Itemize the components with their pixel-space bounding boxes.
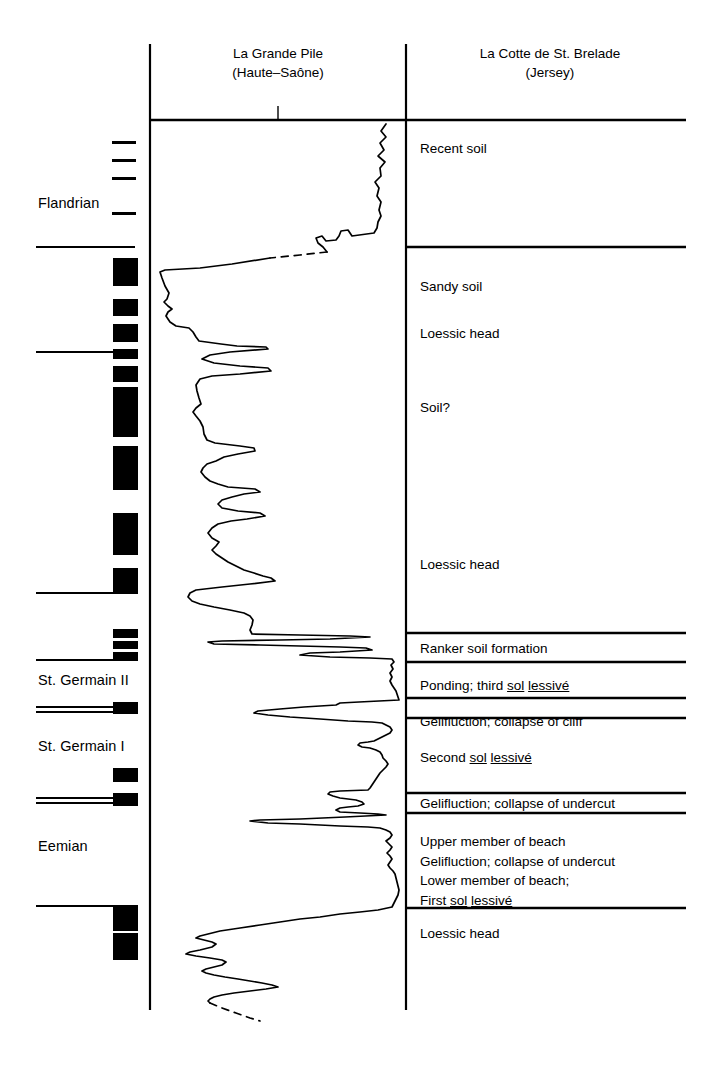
lithology-block-17: [113, 768, 138, 782]
lithology-dash-2: [112, 177, 136, 180]
pollen-curve-dashed-3: [210, 1003, 260, 1021]
lithology-dash-1: [112, 159, 136, 162]
lithology-block-19: [113, 905, 138, 931]
lithology-block-20: [113, 933, 138, 960]
pollen-curve-solid-2: [160, 258, 399, 1003]
figure-vector-layer: [0, 0, 727, 1088]
lithology-block-6: [113, 324, 138, 342]
lithology-block-18: [113, 793, 138, 806]
lithology-dash-0: [112, 141, 136, 144]
pollen-curve-dashed-1: [270, 252, 327, 258]
lithology-block-10: [113, 446, 138, 490]
lithology-block-13: [113, 629, 138, 638]
lithology-block-12: [113, 568, 138, 594]
lithology-block-16: [113, 702, 138, 714]
lithology-block-5: [113, 299, 138, 316]
pollen-curve-solid-0: [316, 124, 386, 252]
lithology-dash-3: [112, 212, 136, 215]
lithology-block-9: [113, 387, 138, 437]
correlation-figure: La Grande Pile (Haute–Saône) La Cotte de…: [0, 0, 727, 1088]
lithology-block-8: [113, 366, 138, 382]
lithology-block-4: [113, 258, 138, 286]
lithology-block-11: [113, 513, 138, 555]
lithology-block-15: [113, 652, 138, 661]
lithology-block-14: [113, 641, 138, 649]
right-boundary-rules: [406, 247, 686, 908]
lithology-bars: [112, 141, 138, 960]
pollen-curve: [160, 124, 399, 1021]
frame-group: [150, 44, 686, 1010]
lithology-block-7: [113, 349, 138, 359]
